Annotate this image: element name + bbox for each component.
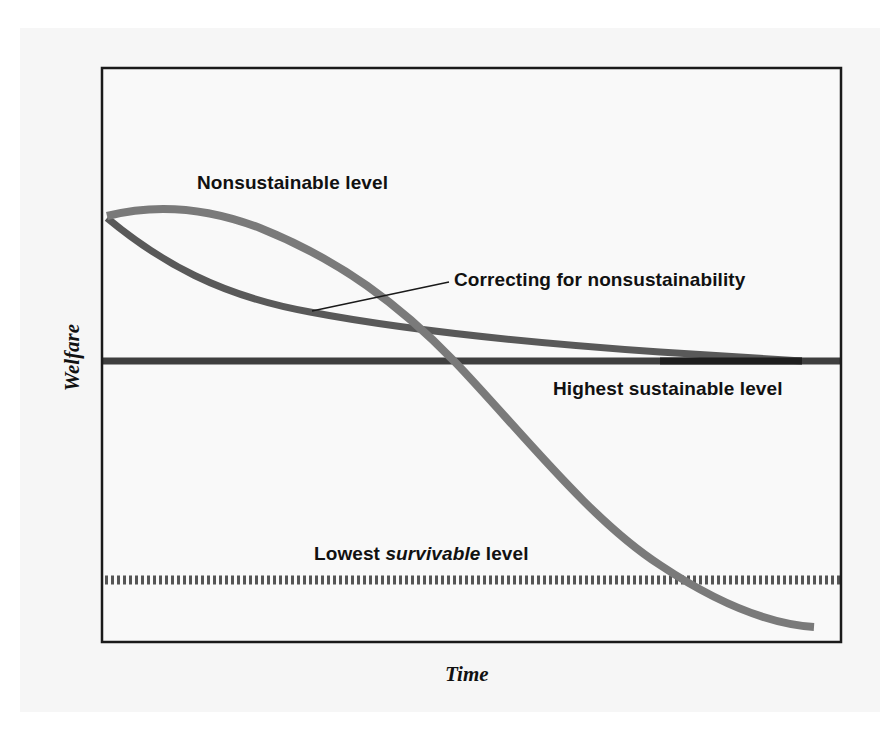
x-axis-label: Time [445,662,489,687]
lowest-survivable-prefix: Lowest [314,543,385,564]
lowest-survivable-suffix: level [480,543,528,564]
nonsustainable-label: Nonsustainable level [197,172,388,194]
highest-sustainable-label: Highest sustainable level [553,378,783,400]
y-axis-label: Welfare [60,320,85,396]
lowest-survivable-emphasis: survivable [385,543,480,564]
correcting-label: Correcting for nonsustainability [454,269,745,291]
welfare-time-chart [0,0,893,734]
lowest-survivable-label: Lowest survivable level [314,543,529,565]
